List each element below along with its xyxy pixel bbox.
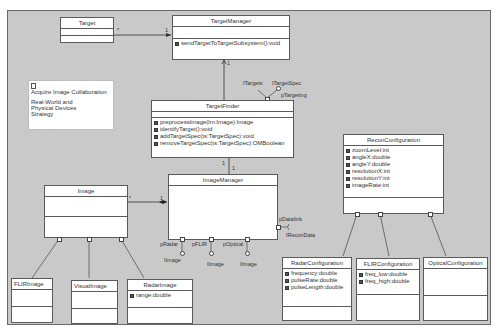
class-flir-configuration[interactable]: FLIRConfiguration freq_low:double freq_h… (356, 258, 420, 321)
inheritance-arrow-icon (355, 212, 360, 217)
attribute: freq_high:double (359, 278, 417, 285)
attribute-icon (285, 272, 289, 276)
operations-section (12, 307, 52, 309)
class-name: FLIRImage (12, 279, 52, 290)
provided-interface-icon (209, 251, 214, 256)
port-label: pRadar (160, 241, 178, 247)
attribute: resolutionX:int (346, 168, 441, 175)
port-interface-label: ITargets (243, 80, 263, 86)
attributes-section (12, 290, 52, 307)
class-name: ImageManager (169, 175, 277, 186)
operations-section (45, 217, 127, 219)
attribute: freq_low:double (359, 271, 417, 278)
attribute: pulseRate:double (285, 277, 349, 284)
port-icon[interactable] (209, 237, 214, 242)
class-name: RadarImage (128, 280, 192, 291)
class-name: Target (61, 18, 113, 29)
attributes-section (72, 292, 117, 309)
port-label: pOptical (223, 241, 243, 247)
port-label: pTargeting (281, 92, 307, 98)
class-flir-image[interactable]: FLIRImage (11, 278, 53, 323)
attributes-section: frequency:double pulseRate:double pulseL… (283, 269, 351, 307)
class-target-finder[interactable]: TargetFinder preprocessImage(lm:Image):I… (151, 100, 294, 158)
attribute: angleX:double (346, 154, 441, 161)
attributes-section (45, 197, 127, 217)
multiplicity-label: 1 (165, 27, 168, 33)
attribute-icon (346, 184, 350, 188)
operation: removeTargetSpec(ts:TargetSpec):OMBoolea… (154, 140, 291, 147)
port-icon[interactable] (180, 237, 185, 242)
class-target[interactable]: Target (60, 17, 114, 43)
class-name: VisualImage (72, 281, 117, 292)
class-target-manager[interactable]: TargetManager sendTargetToTargetSubsyste… (172, 15, 290, 60)
operation-icon (175, 42, 179, 46)
port-label: pFLIR (192, 241, 207, 247)
note-text: Real-World and Physical Devices Strategy (31, 99, 91, 117)
attribute: frequency:double (285, 270, 349, 277)
operation-icon (154, 128, 158, 132)
inheritance-arrow-icon (87, 237, 92, 242)
class-image[interactable]: Image (44, 185, 128, 238)
attribute: imageRate:int (346, 182, 441, 189)
attributes-section (173, 27, 289, 39)
attributes-section (61, 29, 113, 36)
multiplicity-label: * (117, 27, 119, 33)
provided-interface-icon (276, 86, 281, 91)
operations-section (72, 309, 117, 311)
operation-icon (154, 121, 158, 125)
operation: addTargetSpec(ts:TargetSpec):void (154, 133, 291, 140)
attribute-icon (346, 149, 350, 153)
attribute: angleY:double (346, 161, 441, 168)
attribute-icon (359, 273, 363, 277)
attributes-section: range:double (128, 291, 192, 308)
attribute: resolutionY:int (346, 175, 441, 182)
operations-section: preprocessImage(lm:Image):Image identify… (152, 118, 293, 148)
collaboration-note[interactable]: Acquire Image Collaboration Real-World a… (28, 80, 114, 130)
operations-section: sendTargetToTargetSubsystem():void (173, 39, 289, 48)
operation: identifyTarget():void (154, 126, 291, 133)
attributes-section: freq_low:double freq_high:double (357, 270, 419, 295)
operations-section (424, 296, 487, 298)
class-name: TargetManager (173, 16, 289, 27)
class-radar-image[interactable]: RadarImage range:double (127, 279, 193, 324)
class-name: TargetFinder (152, 101, 293, 112)
inheritance-arrow-icon (57, 237, 62, 242)
operations-section (128, 308, 192, 310)
class-radar-configuration[interactable]: RadarConfiguration frequency:double puls… (282, 257, 352, 321)
operations-section (283, 307, 351, 309)
class-name: Image (45, 186, 127, 197)
operation-icon (154, 135, 158, 139)
multiplicity-label: 1 (160, 195, 163, 201)
class-visual-image[interactable]: VisualImage (71, 280, 118, 324)
port-icon[interactable] (245, 237, 250, 242)
operation-icon (154, 142, 158, 146)
attribute: range:double (130, 292, 190, 299)
inheritance-arrow-icon (428, 212, 433, 217)
attribute-icon (346, 156, 350, 160)
inheritance-arrow-icon (119, 237, 124, 242)
class-name: FLIRConfiguration (357, 259, 419, 270)
multiplicity-label: * (129, 195, 131, 201)
class-optical-configuration[interactable]: OpticalConfiguration (423, 257, 488, 321)
attribute: zoomLevel:int (346, 147, 441, 154)
attributes-section (424, 269, 487, 296)
port-interface-label: IImage (164, 257, 181, 263)
multiplicity-label: 1 (232, 165, 235, 171)
port-interface-label: ITargetSpec (272, 80, 301, 86)
class-recon-configuration[interactable]: ReconConfiguration zoomLevel:int angleX:… (343, 134, 444, 214)
attribute: pulseLength:double (285, 284, 349, 291)
attribute-icon (359, 280, 363, 284)
multiplicity-label: 1 (227, 60, 230, 66)
attribute-icon (346, 177, 350, 181)
port-interface-label: IImage (207, 261, 224, 267)
operations-section (344, 198, 443, 200)
attribute-icon (346, 163, 350, 167)
class-name: OpticalConfiguration (424, 258, 487, 269)
provided-interface-icon (180, 251, 185, 256)
port-interface-label: IImage (240, 261, 257, 267)
operation: preprocessImage(lm:Image):Image (154, 119, 291, 126)
port-icon[interactable] (276, 225, 281, 230)
class-image-manager[interactable]: ImageManager (168, 174, 278, 240)
class-name: RadarConfiguration (283, 258, 351, 269)
inheritance-arrow-icon (378, 212, 383, 217)
